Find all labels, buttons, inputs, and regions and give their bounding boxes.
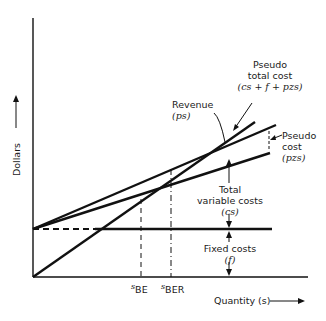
arrowhead-icon [226, 269, 232, 276]
pseudo-total-cost-leader [235, 103, 252, 128]
revenue-label: Revenue (ps) [172, 99, 213, 121]
arrowhead-icon [233, 124, 239, 131]
s-be-label: sBE [131, 281, 148, 295]
arrow-right-icon [298, 298, 305, 304]
x-axis-label: Quantity (s) [214, 295, 270, 306]
total-variable-costs-label: Total variable costs (cs) [194, 184, 266, 217]
fixed-costs-label: Fixed costs (f) [199, 243, 261, 265]
arrow-up-icon [13, 95, 19, 102]
y-axis-label: Dollars [11, 138, 22, 182]
arrowhead-icon [226, 231, 232, 238]
s-ber-label: sBER [161, 281, 184, 295]
arrowhead-icon [270, 135, 276, 140]
break-even-diagram [0, 0, 326, 321]
pseudo-total-cost-label: Pseudo total cost (cs + f + pzs) [230, 59, 310, 92]
arrowhead-icon [226, 159, 232, 166]
revenue-leader [214, 113, 225, 142]
arrowhead-icon [226, 221, 232, 228]
pseudo-cost-label: Pseudo cost (pzs) [282, 130, 316, 163]
